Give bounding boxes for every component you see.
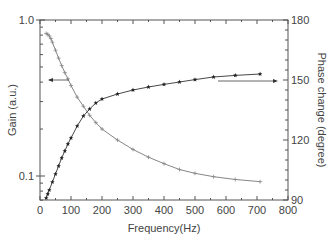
x-tick-label: 100 (62, 204, 80, 216)
phase-marker (193, 77, 198, 81)
y-axis-title: Gain (a.u.) (6, 84, 18, 136)
gain-marker (50, 40, 54, 44)
y2-axis-title: Phase change (degree) (316, 53, 328, 168)
gain-marker (60, 64, 64, 68)
y2-tick-label: 90 (291, 194, 303, 206)
y2-tick-label: 150 (291, 74, 309, 86)
x-tick-label: 200 (93, 204, 111, 216)
y2-tick-label: 180 (291, 14, 309, 26)
x-tick-label: 400 (155, 204, 173, 216)
arrow-right-head-icon (273, 79, 278, 83)
phase-line (46, 74, 260, 198)
x-tick-label: 0 (37, 204, 43, 216)
gain-marker (69, 84, 73, 88)
phase-marker (53, 172, 58, 176)
gain-marker (233, 177, 237, 181)
phase-marker (233, 73, 238, 77)
gain-marker (193, 171, 197, 175)
y-tick-label: 0.1 (19, 170, 34, 182)
gain-marker (178, 168, 182, 172)
phase-marker (50, 180, 55, 184)
phase-marker (115, 92, 120, 96)
phase-marker (258, 72, 263, 76)
phase-marker (211, 75, 216, 79)
gain-marker (147, 155, 151, 159)
arrow-left-head-icon (48, 78, 53, 82)
phase-marker (59, 156, 64, 160)
phase-marker (162, 82, 167, 86)
x-tick-label: 700 (248, 204, 266, 216)
plot-series (44, 31, 278, 199)
gain-marker (258, 180, 262, 184)
plot-axes (36, 20, 288, 200)
x-tick-label: 600 (217, 204, 235, 216)
phase-marker (69, 136, 74, 140)
gain-marker (212, 175, 216, 179)
phase-marker (45, 192, 50, 196)
phase-marker (177, 80, 182, 84)
dual-axis-chart: 01002003004005006007008000.11.0901201501… (0, 0, 336, 246)
phase-marker (66, 142, 71, 146)
gain-marker (162, 162, 166, 166)
phase-marker (56, 164, 61, 168)
plot-frame (40, 20, 288, 200)
gain-marker (54, 48, 58, 52)
phase-marker (63, 149, 68, 153)
x-tick-label: 500 (186, 204, 204, 216)
gain-line (46, 33, 260, 181)
gain-marker (57, 56, 61, 60)
phase-marker (44, 196, 49, 200)
phase-marker (131, 88, 136, 92)
y-tick-label: 1.0 (19, 14, 34, 26)
phase-marker (47, 188, 52, 192)
gain-marker (131, 147, 135, 151)
gain-marker (63, 71, 67, 75)
phase-marker (146, 85, 151, 89)
x-axis-title: Frequency(Hz) (128, 222, 201, 234)
y2-tick-label: 120 (291, 134, 309, 146)
x-tick-label: 300 (124, 204, 142, 216)
